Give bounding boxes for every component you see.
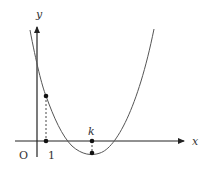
curve-minimum-at-k [90,151,95,156]
tick-label-one: 1 [48,149,55,162]
x-axis-label: x [192,135,199,148]
point-on-curve-at-1 [44,94,49,99]
y-axis-label: y [35,8,43,21]
point-on-x-axis-at-k [90,139,95,144]
tick-label-k: k [88,125,95,138]
origin-label: O [19,149,28,162]
point-on-x-axis-at-1 [44,139,49,144]
function-graph: y x O 1 k [0,0,205,169]
